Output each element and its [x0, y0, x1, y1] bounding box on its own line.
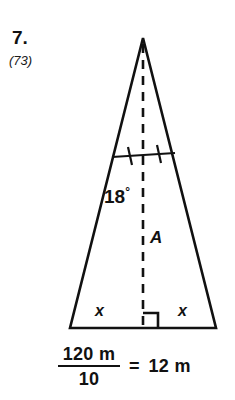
base-left-label: x [95, 303, 104, 319]
altitude-label: A [150, 229, 162, 246]
equation-result: 12 m [149, 356, 191, 378]
angle-measure-label: 18° [104, 186, 130, 206]
equals-sign: = [129, 356, 140, 378]
fraction: 120 m 10 [58, 345, 120, 388]
angle-value: 18 [104, 186, 125, 207]
fraction-numerator: 120 m [61, 345, 118, 365]
problem-figure-page: 7. (73) 18° A x x 120 m 10 = 12 m [0, 0, 235, 400]
equation-row: 120 m 10 = 12 m [58, 345, 191, 388]
fraction-denominator: 10 [77, 367, 102, 388]
base-right-label: x [178, 303, 187, 319]
degree-symbol: ° [125, 185, 130, 199]
